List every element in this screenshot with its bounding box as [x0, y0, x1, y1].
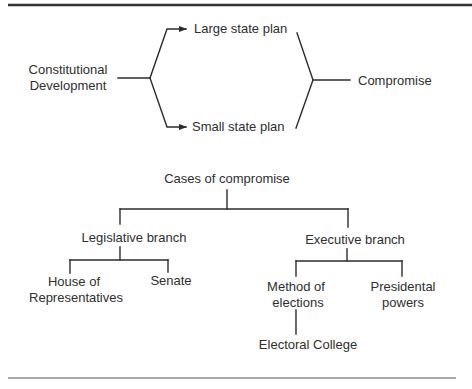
house-of-representatives-node-line-2: Representatives [29, 290, 123, 305]
arrow-to-small-state-plan [150, 78, 186, 127]
presidental-powers-node-line-1: Presidental [370, 279, 435, 294]
electoral-college-node: Electoral College [259, 337, 357, 352]
compromise-node: Compromise [358, 73, 432, 88]
method-of-elections-node-line-1: Method of [267, 279, 325, 294]
source-node-line-1: Constitutional [29, 62, 108, 77]
executive-branch-node: Executive branch [305, 232, 405, 247]
flow-diagram: Constitutional Development Large state p… [29, 21, 432, 134]
legislative-branch-node: Legislative branch [82, 230, 187, 245]
large-state-plan-node: Large state plan [194, 21, 287, 36]
merge-bracket [296, 33, 313, 128]
tree-diagram: Cases of compromise Legislative branch H… [29, 171, 436, 352]
diagram-canvas: Constitutional Development Large state p… [0, 0, 472, 389]
senate-node: Senate [150, 273, 191, 288]
small-state-plan-node: Small state plan [192, 119, 285, 134]
cases-of-compromise-node: Cases of compromise [164, 171, 290, 186]
source-node-line-2: Development [30, 78, 107, 93]
presidental-powers-node-line-2: powers [382, 295, 424, 310]
method-of-elections-node-line-2: elections [272, 295, 324, 310]
house-of-representatives-node-line-1: House of [48, 274, 100, 289]
arrow-to-large-state-plan [150, 29, 186, 78]
